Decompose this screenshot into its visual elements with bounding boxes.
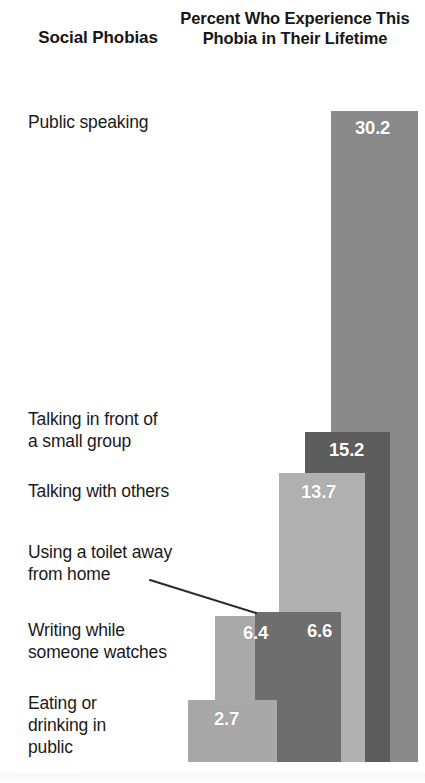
label-talking-in-front-of-small-group: Talking in front of a small group xyxy=(28,408,157,452)
left-column-header: Social Phobias xyxy=(8,28,188,49)
bar-value-small-group: 15.2 xyxy=(329,439,364,461)
bar-value-public-speaking: 30.2 xyxy=(355,117,390,139)
bar-value-talking-with-others: 13.7 xyxy=(301,481,336,503)
label-writing-while-someone-watches: Writing while someone watches xyxy=(28,619,167,663)
bar-value-writing-while-watched: 6.4 xyxy=(243,622,268,644)
label-using-toilet-away-from-home: Using a toilet away from home xyxy=(28,541,172,585)
label-public-speaking: Public speaking xyxy=(28,111,148,133)
social-phobias-chart: Social Phobias Percent Who Experience Th… xyxy=(0,0,425,783)
scan-edge-artifact xyxy=(0,773,425,783)
bar-value-eating-or-drinking-in-public: 2.7 xyxy=(214,708,239,730)
right-column-header: Percent Who Experience This Phobia in Th… xyxy=(170,8,420,48)
label-eating-or-drinking-in-public: Eating or drinking in public xyxy=(28,692,106,758)
bar-value-using-toilet-away-from-home: 6.6 xyxy=(307,620,332,642)
label-talking-with-others: Talking with others xyxy=(28,480,169,502)
